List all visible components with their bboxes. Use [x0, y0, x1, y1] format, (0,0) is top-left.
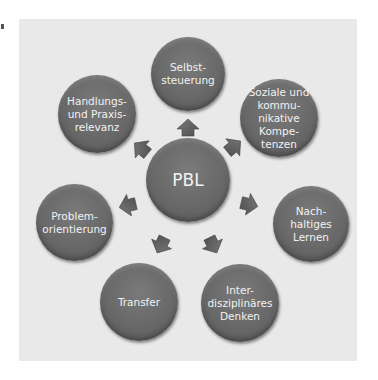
node-handlungs-praxisrelevanz: Handlungs- und Praxis- relevanz — [58, 75, 136, 153]
node-soziale-kompetenzen: Soziale und kommu- nikative Kompe- tenze… — [240, 79, 318, 157]
arrow-up-icon — [177, 119, 199, 136]
arrow-upper-right-icon — [220, 133, 247, 161]
node-transfer: Transfer — [100, 263, 178, 341]
arrow-lower-right-icon — [199, 233, 226, 258]
node-pbl-center: PBL — [146, 138, 230, 222]
arrow-left-icon — [117, 193, 139, 218]
arrow-upper-left-icon — [128, 135, 155, 163]
arrow-right-icon — [239, 192, 261, 217]
node-selbststeuerung: Selbst- steuerung — [151, 37, 225, 111]
node-nachhaltiges-lernen: Nach- haltiges Lernen — [273, 186, 349, 262]
arrow-lower-left-icon — [147, 233, 174, 258]
node-problemorientierung: Problem- orientierung — [36, 184, 113, 261]
node-interdisziplinaeres-denken: Inter- disziplinäres Denken — [201, 264, 279, 342]
